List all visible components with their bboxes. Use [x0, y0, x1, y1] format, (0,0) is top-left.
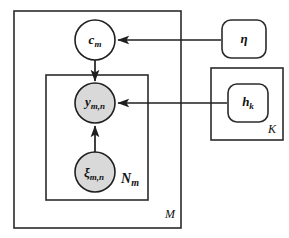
- node-eta-symbol: η: [240, 31, 247, 46]
- plate-K-label: K: [267, 122, 277, 136]
- plate-M-label: M: [164, 207, 176, 221]
- node-c-m-subscript: m: [94, 39, 101, 49]
- node-hk-symbol: h: [242, 94, 249, 109]
- node-hk-subscript: k: [249, 101, 254, 111]
- node-xi-mn-subscript: m,n: [90, 172, 104, 182]
- plate-Nm-label: Nm: [120, 171, 139, 188]
- node-eta-label: η: [240, 31, 247, 46]
- plate-Nm-subscript: m: [131, 177, 139, 188]
- node-y-mn-subscript: m,n: [91, 101, 105, 111]
- plate-notation-diagram: cm ym,n ξm,n η hk Nm M K: [0, 0, 289, 238]
